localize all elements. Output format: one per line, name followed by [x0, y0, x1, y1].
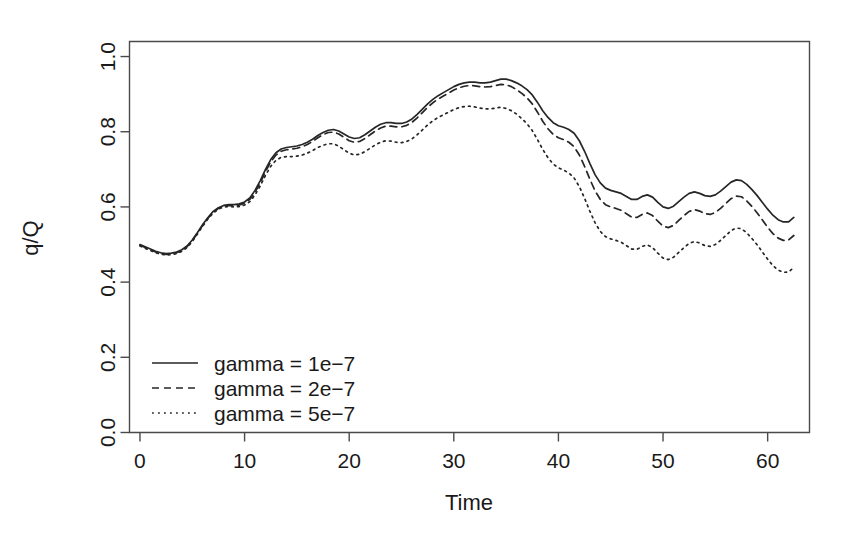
- y-axis-title: q/Q: [18, 220, 43, 255]
- legend-label-2: gamma = 2e−7: [214, 377, 355, 400]
- x-tick-label: 10: [233, 449, 256, 472]
- y-tick-label: 0.8: [96, 117, 119, 146]
- series-line-2: [140, 84, 794, 254]
- x-tick-label: 60: [756, 449, 779, 472]
- legend-label-1: gamma = 1e−7: [214, 352, 355, 375]
- legend-label-3: gamma = 5e−7: [214, 402, 355, 425]
- chart-figure: 0.00.20.40.60.81.0 0102030405060 Time q/…: [0, 0, 850, 534]
- x-axis-ticks: 0102030405060: [134, 433, 779, 472]
- plot-svg: 0.00.20.40.60.81.0 0102030405060 Time q/…: [0, 0, 850, 534]
- x-tick-label: 0: [134, 449, 146, 472]
- x-axis-title: Time: [445, 490, 493, 515]
- y-tick-label: 1.0: [96, 42, 119, 71]
- x-tick-label: 40: [547, 449, 570, 472]
- x-tick-label: 50: [651, 449, 674, 472]
- x-tick-label: 30: [442, 449, 465, 472]
- y-axis-ticks: 0.00.20.40.60.81.0: [96, 42, 130, 447]
- series-line-1: [140, 79, 794, 253]
- series-line-3: [140, 106, 794, 272]
- x-tick-label: 20: [338, 449, 361, 472]
- y-tick-label: 0.0: [96, 418, 119, 447]
- series-group: [140, 79, 794, 272]
- y-tick-label: 0.6: [96, 192, 119, 221]
- y-tick-label: 0.4: [96, 267, 119, 297]
- y-tick-label: 0.2: [96, 343, 119, 372]
- chart-legend: gamma = 1e−7gamma = 2e−7gamma = 5e−7: [152, 352, 355, 425]
